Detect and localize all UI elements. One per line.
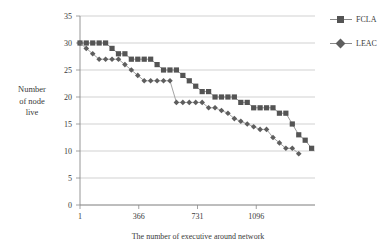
data-point-marker [219,108,225,114]
data-point-marker [277,111,282,116]
y-tick-label: 15 [64,120,72,129]
y-tick-label: 25 [64,66,72,75]
legend-label-leac: LEAC [356,39,377,48]
data-point-marker [193,84,198,89]
data-point-marker [212,105,218,111]
axis-lines [80,16,315,205]
data-point-marker [167,67,172,72]
data-point-marker [290,121,295,126]
data-point-marker [154,62,159,67]
x-tick-label: 366 [133,212,145,221]
data-point-marker [219,94,224,99]
data-point-marker [116,51,121,56]
data-point-marker [180,73,185,78]
x-tick-label: 1096 [248,212,264,221]
data-point-marker [167,78,173,84]
data-point-marker [103,56,109,62]
data-point-marker [103,40,108,45]
series-leac [77,40,301,156]
data-point-marker [142,57,147,62]
data-point-marker [283,111,288,116]
data-point-marker [245,100,250,105]
data-point-marker [161,67,166,72]
data-point-marker [251,105,256,110]
data-point-marker [225,94,230,99]
data-point-marker [257,127,263,133]
data-point-marker [212,94,217,99]
data-point-marker [200,89,205,94]
square-marker-icon [330,14,352,25]
data-point-marker [270,105,275,110]
chart-figure: Number of node live 05101520253035 13667… [0,0,392,249]
y-tick-label: 30 [64,39,72,48]
data-point-marker [122,51,127,56]
legend-label-fcla: FCLA [356,15,376,24]
x-tick-labels: 13667311096 [78,212,264,221]
data-point-marker [187,78,192,83]
data-series-layer [77,40,314,156]
y-tick-label: 10 [64,147,72,156]
x-axis-title: The number of executive around network [80,232,316,241]
y-tick-label: 0 [68,201,72,210]
data-point-marker [148,78,154,84]
data-point-marker [244,121,250,127]
y-tick-labels: 05101520253035 [64,12,72,210]
y-tick-label: 35 [64,12,72,21]
data-point-marker [251,124,257,130]
x-tick-label: 1 [78,212,82,221]
data-point-marker [174,67,179,72]
data-point-marker [154,78,160,84]
data-point-marker [186,100,192,106]
diamond-marker-icon [330,38,352,49]
data-point-marker [296,132,301,137]
data-point-marker [258,105,263,110]
data-point-marker [129,57,134,62]
x-tick-marks [80,205,256,209]
data-point-marker [232,94,237,99]
data-point-marker [109,46,114,51]
gridlines [80,16,315,205]
data-point-marker [174,100,180,106]
data-point-marker [238,119,244,125]
data-point-marker [109,56,115,62]
data-point-marker [135,57,140,62]
data-point-marker [193,100,199,106]
data-point-marker [97,40,102,45]
series-fcla [77,40,314,150]
data-point-marker [238,100,243,105]
data-point-marker [309,146,314,151]
y-tick-label: 20 [64,93,72,102]
y-tick-label: 5 [68,174,72,183]
chart-legend: FCLA LEAC [330,13,390,61]
data-point-marker [264,105,269,110]
x-tick-label: 731 [192,212,204,221]
data-point-marker [180,100,186,106]
data-point-marker [161,78,167,84]
data-point-marker [148,57,153,62]
data-point-marker [206,89,211,94]
legend-entry-fcla: FCLA [330,13,390,26]
data-point-marker [90,40,95,45]
legend-entry-leac: LEAC [330,37,390,50]
data-point-marker [303,138,308,143]
data-point-marker [84,40,89,45]
